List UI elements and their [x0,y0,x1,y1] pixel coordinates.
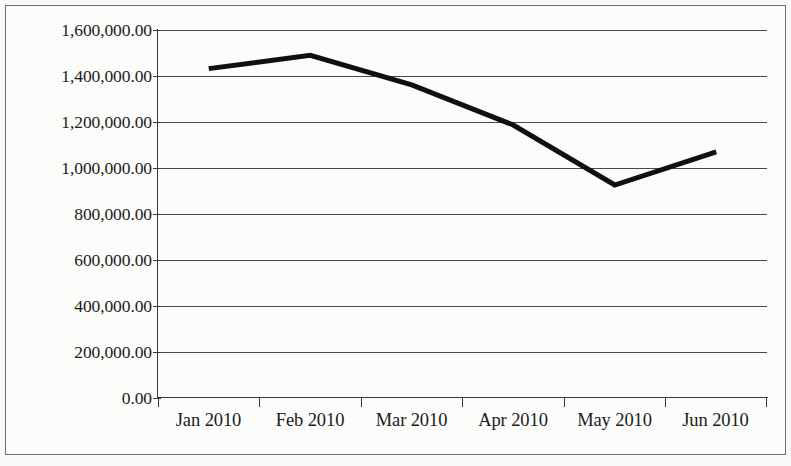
y-tick-mark [153,76,161,77]
x-tick-label-mar: Mar 2010 [361,410,462,431]
x-tick-mark [158,398,159,407]
y-tick-mark [153,122,161,123]
y-tick-mark [153,260,161,261]
x-tick-label-may: May 2010 [564,410,665,431]
y-tick-mark [153,168,161,169]
y-axis-labels: 1,600,000.00 1,400,000.00 1,200,000.00 1… [0,0,152,466]
x-tick-mark [462,398,463,407]
x-tick-label-feb: Feb 2010 [259,410,361,431]
x-tick-mark [259,398,260,407]
gridline [158,30,767,31]
y-tick-label: 0.00 [2,388,152,409]
y-tick-label: 1,600,000.00 [2,20,152,41]
gridline [158,122,767,123]
gridline [158,306,767,307]
y-tick-label: 800,000.00 [2,204,152,225]
y-tick-mark [153,352,161,353]
x-tick-label-apr: Apr 2010 [462,410,564,431]
gridline [158,214,767,215]
chart-figure: 1,600,000.00 1,400,000.00 1,200,000.00 1… [0,0,791,466]
plot-area [158,30,767,398]
x-tick-mark [564,398,565,407]
y-tick-mark [153,306,161,307]
gridline [158,76,767,77]
gridline [158,260,767,261]
y-tick-label: 1,200,000.00 [2,112,152,133]
y-tick-label: 1,400,000.00 [2,66,152,87]
x-tick-mark [361,398,362,407]
y-tick-label: 1,000,000.00 [2,158,152,179]
gridline [158,352,767,353]
x-tick-mark [766,398,767,407]
x-tick-mark [665,398,666,407]
y-tick-label: 200,000.00 [2,342,152,363]
y-tick-mark [153,398,161,399]
gridline [158,168,767,169]
y-tick-mark [153,214,161,215]
x-tick-label-jan: Jan 2010 [158,410,259,431]
y-tick-mark [153,30,161,31]
x-tick-label-jun: Jun 2010 [665,410,766,431]
y-tick-label: 600,000.00 [2,250,152,271]
y-tick-label: 400,000.00 [2,296,152,317]
